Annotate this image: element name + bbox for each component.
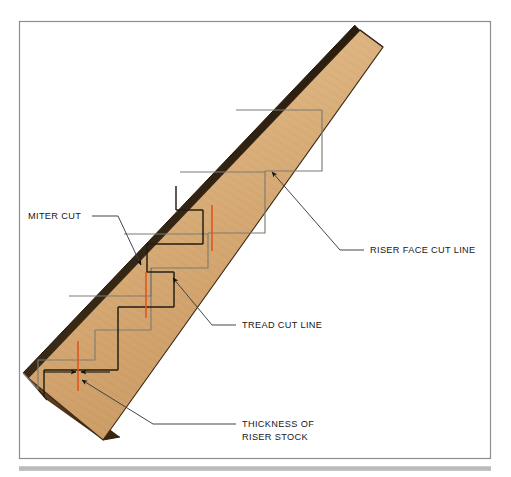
stair-stringer-diagram: MITER CUT RISER FACE CUT LINE TREAD CUT … [0,0,511,477]
tread-cut-line-label: TREAD CUT LINE [242,320,322,330]
riser-face-cut-line-label: RISER FACE CUT LINE [370,245,476,255]
thickness-of-riser-stock-label-line1: THICKNESS OF [242,419,314,429]
figure-canvas: MITER CUT RISER FACE CUT LINE TREAD CUT … [0,0,511,477]
thickness-of-riser-stock-label-line2: RISER STOCK [242,432,308,442]
footer-bar [19,466,491,471]
miter-cut-label: MITER CUT [28,211,81,221]
